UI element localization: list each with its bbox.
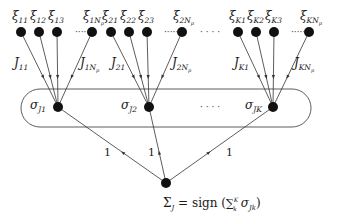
output-weight-label: 1 [148,146,155,159]
ellipsis: ····· [291,27,305,37]
edges [21,32,309,183]
ellipsis: · · · · [200,27,220,37]
nodes [16,27,314,188]
input-node-x12 [34,27,44,37]
input-edge [256,32,273,107]
weight-label: JK1 [231,56,249,72]
weight-label: J2Np [169,56,192,74]
input-label: ξK3 [265,9,282,25]
input-edge [39,32,58,107]
input-node-x2Np [177,27,187,37]
hidden-label: σJ2 [121,98,137,114]
ellipsis: ····· [75,27,89,37]
output-formula: ΣJ = sign (∑Kk σJk) [163,196,261,212]
input-label: ξ21 [102,9,118,25]
input-label: ξ11 [12,9,28,25]
input-node-xK3 [269,27,279,37]
input-label: ξK2 [247,9,264,25]
input-label: ξ2Np [173,9,195,27]
output-edge [58,107,166,183]
input-edge [57,32,58,107]
hidden-node-s2 [144,102,154,112]
input-label: ξ22 [120,9,136,25]
hidden-label: σJ1 [30,98,46,114]
input-label: ξKNp [300,9,323,27]
arrow-head-icon [48,75,52,80]
input-node-x22 [124,27,134,37]
hidden-node-sK [268,102,278,112]
arrow-head-icon [69,75,74,80]
arrow-head-icon [41,74,46,79]
input-node-x23 [142,27,152,37]
hidden-label: σJK [245,98,262,114]
arrow-head-icon [272,75,275,79]
ellipsis: · · · · [200,102,220,112]
arrow-head-icon [160,75,165,80]
weight-label: J21 [108,56,125,72]
hidden-node-s1 [53,102,63,112]
arrow-head-icon [131,74,136,79]
input-node-xKNp [304,27,314,37]
output-weight-label: 1 [226,146,233,159]
input-edge [147,32,149,107]
input-node-x21 [106,27,116,37]
input-node-x11 [16,27,26,37]
network-diagram: ξ11ξ12ξ13ξ1Npξ21ξ22ξ23ξ2NpξK1ξK2ξK3ξKNpσ… [0,0,337,221]
output-weight-label: 1 [104,146,111,159]
arrow-head-icon [56,75,59,79]
input-node-xK2 [251,27,261,37]
input-edge [273,32,274,107]
weight-label: J1Np [77,56,100,74]
input-label: ξ12 [30,9,46,25]
arrow-head-icon [257,75,262,80]
arrow-head-icon [147,75,150,79]
input-label: ξ23 [138,9,154,25]
weight-label: JKNp [291,56,315,74]
arrow-head-icon [285,75,290,80]
input-node-x13 [52,27,62,37]
input-edge [129,32,149,107]
ellipsis: ····· [164,27,178,37]
input-label: ξ13 [48,9,64,25]
arrow-head-icon [139,75,143,80]
input-label: ξK1 [229,9,246,25]
diagram-canvas: ξ11ξ12ξ13ξ1Npξ21ξ22ξ23ξ2NpξK1ξK2ξK3ξKNpσ… [0,0,337,221]
output-edge [166,107,273,183]
input-node-xK1 [233,27,243,37]
output-node [161,178,171,188]
output-edge [149,107,166,183]
weight-label: J11 [11,56,28,72]
